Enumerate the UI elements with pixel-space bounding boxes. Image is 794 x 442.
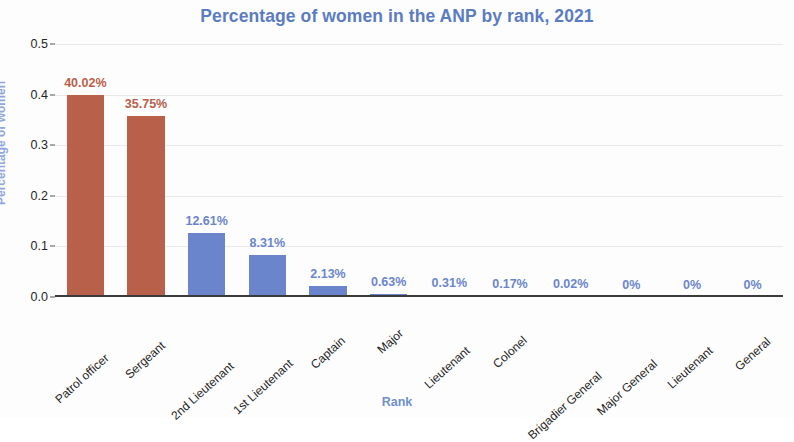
y-tick-label: 0.5 [31, 37, 48, 51]
y-tick-mark [50, 145, 55, 146]
bar-value-label: 0% [744, 278, 762, 292]
bar-value-label: 8.31% [250, 236, 285, 250]
bar-value-label: 12.61% [185, 214, 227, 228]
chart-title: Percentage of women in the ANP by rank, … [0, 6, 794, 27]
gridline [55, 44, 783, 45]
x-axis-title: Rank [0, 395, 794, 409]
y-tick-mark [50, 246, 55, 247]
bar[interactable] [127, 116, 165, 297]
y-tick-label: 0.4 [31, 88, 48, 102]
y-tick-label: 0.1 [31, 239, 48, 253]
y-tick-label: 0.0 [31, 290, 48, 304]
bar[interactable] [67, 95, 105, 298]
x-tick-label: Sergeant [122, 339, 168, 382]
bar-value-label: 2.13% [310, 267, 345, 281]
bar-value-label: 0% [622, 278, 640, 292]
x-axis-line [55, 295, 783, 297]
plot-area: 0.00.10.20.30.40.5 40.02%35.75%12.61%8.3… [55, 44, 783, 297]
bar-value-label: 0.31% [432, 276, 467, 290]
y-tick-mark [50, 94, 55, 95]
x-tick-label: Major [374, 326, 406, 356]
x-tick-label: Colonel [490, 333, 530, 371]
x-tick-label: Lieutenant [422, 344, 473, 392]
bar-value-label: 0.17% [492, 277, 527, 291]
bar-value-label: 40.02% [64, 76, 106, 90]
y-tick-label: 0.3 [31, 138, 48, 152]
x-tick-label: Lieutenant [665, 344, 716, 392]
x-tick-label: General [732, 335, 773, 374]
y-tick-mark [50, 195, 55, 196]
y-tick-label: 0.2 [31, 189, 48, 203]
y-axis-title: Percentage of women [0, 81, 8, 205]
bar-value-label: 0.63% [371, 275, 406, 289]
x-tick-label: Captain [308, 334, 348, 372]
y-tick-mark [50, 44, 55, 45]
bar-value-label: 0.02% [553, 277, 588, 291]
gridline [55, 95, 783, 96]
bar-value-label: 35.75% [125, 97, 167, 111]
bar[interactable] [188, 233, 226, 297]
x-tick-label: 2nd Lieutenant [168, 359, 236, 423]
bar-value-label: 0% [683, 278, 701, 292]
bar[interactable] [249, 255, 287, 297]
